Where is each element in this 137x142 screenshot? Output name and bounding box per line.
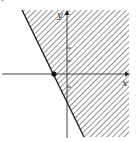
y-axis-label: y	[57, 10, 63, 20]
shaded-region	[0, 0, 137, 142]
x-axis-label: x	[122, 78, 128, 88]
x-intercept-dot	[51, 71, 56, 76]
inequality-graph	[0, 0, 137, 142]
